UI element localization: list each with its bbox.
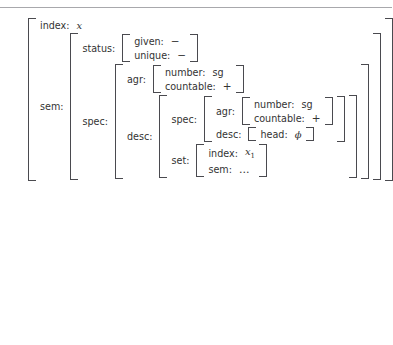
row-index: index: x bbox=[40, 18, 381, 32]
avm-level-4: spec: bbox=[159, 95, 356, 178]
row-sem-set: sem: … bbox=[208, 163, 255, 177]
value-countable-level-4: + bbox=[312, 112, 321, 125]
avm-status: given: − unique: − bbox=[122, 34, 198, 62]
row-unique: unique: − bbox=[134, 48, 186, 62]
avm-body-set: index: x1 sem: bbox=[208, 144, 255, 177]
attr-countable-label-level-4: countable: bbox=[254, 112, 312, 125]
row-head: head: ϕ bbox=[260, 127, 301, 141]
row-number-level-4: number: sg bbox=[254, 97, 321, 111]
avm-agr-level-3: number: sg countable: + bbox=[153, 65, 244, 93]
row-sem: sem: status: bbox=[40, 32, 381, 181]
avm-body-level-2: status: given: − bbox=[82, 33, 368, 180]
row-desc-level-3: desc: bbox=[127, 94, 357, 179]
row-agr-level-4: agr: bbox=[216, 96, 333, 126]
avm-body-level-4: spec: bbox=[171, 95, 344, 178]
value-number-level-4: sg bbox=[301, 98, 312, 111]
avm-set: index: x1 sem: bbox=[196, 144, 267, 177]
value-desc-level-4: head: ϕ bbox=[248, 127, 313, 141]
attr-given-label: given: bbox=[134, 35, 171, 48]
row-set: set: bbox=[171, 143, 344, 178]
attr-agr-label-level-4: agr: bbox=[216, 105, 242, 118]
bracket-left-head bbox=[248, 127, 256, 141]
bracket-right-level-1 bbox=[385, 18, 393, 181]
attr-unique-label: unique: bbox=[134, 49, 177, 62]
value-sem: status: given: − bbox=[70, 33, 380, 180]
avm-body-agr-level-3: number: sg countable: + bbox=[165, 65, 232, 93]
attr-desc-label-level-4: desc: bbox=[216, 128, 249, 141]
value-index-x1: x1 bbox=[245, 145, 255, 163]
attr-countable-label-level-3: countable: bbox=[165, 80, 223, 93]
attr-number-label-level-4: number: bbox=[254, 98, 302, 111]
attr-desc-label-level-3: desc: bbox=[127, 130, 160, 143]
row-desc-level-4: desc: bbox=[216, 126, 333, 142]
bracket-right-agr-level-4 bbox=[325, 97, 333, 125]
avm-body-head: head: ϕ bbox=[260, 127, 301, 141]
bracket-left-status bbox=[122, 34, 130, 62]
bracket-right-level-3 bbox=[361, 64, 369, 179]
value-number-level-3: sg bbox=[212, 66, 223, 79]
bracket-right-spec-level-4 bbox=[337, 96, 345, 142]
top-horizontal-rule bbox=[0, 7, 392, 8]
bracket-right-agr-level-3 bbox=[236, 65, 244, 93]
value-agr-level-4: number: sg bbox=[242, 97, 333, 125]
bracket-left-level-3 bbox=[115, 64, 123, 179]
row-agr-level-3: agr: number: bbox=[127, 64, 357, 94]
value-head-phi: ϕ bbox=[295, 128, 302, 141]
bracket-left-spec-level-4 bbox=[204, 96, 212, 142]
avm-body-spec-level-4: agr: bbox=[216, 96, 333, 142]
value-index: x bbox=[76, 19, 82, 32]
value-agr-level-3: number: sg countable: + bbox=[153, 65, 244, 93]
attr-index-label: index: bbox=[40, 19, 76, 32]
attr-spec-label-level-4: spec: bbox=[171, 113, 204, 126]
value-set: index: x1 sem: bbox=[196, 144, 267, 177]
attr-agr-label-level-3: agr: bbox=[127, 73, 153, 86]
avm-level-3: agr: number: bbox=[115, 64, 369, 179]
value-spec-level-2: agr: number: bbox=[115, 64, 369, 179]
attr-spec-label-level-2: spec: bbox=[82, 115, 115, 128]
row-number-level-3: number: sg bbox=[165, 65, 232, 79]
attr-index-label-set: index: bbox=[208, 147, 244, 160]
value-index-x: x bbox=[76, 19, 82, 32]
avm-figure: index: x sem: bbox=[28, 18, 376, 181]
bracket-left-agr-level-4 bbox=[242, 97, 250, 125]
bracket-right-status bbox=[190, 34, 198, 62]
avm-body-level-3: agr: number: bbox=[127, 64, 357, 179]
value-unique: − bbox=[177, 49, 186, 62]
attr-sem-label-set: sem: bbox=[208, 163, 238, 176]
bracket-right-level-2 bbox=[373, 33, 381, 180]
row-spec-level-4: spec: bbox=[171, 95, 344, 143]
bracket-left-level-1 bbox=[28, 18, 36, 181]
attr-number-label-level-3: number: bbox=[165, 66, 213, 79]
attr-sem-label: sem: bbox=[40, 100, 70, 113]
avm-level-2: status: given: − bbox=[70, 33, 380, 180]
attr-head-label: head: bbox=[260, 128, 294, 141]
value-sem-ellipsis: … bbox=[239, 163, 250, 176]
row-given: given: − bbox=[134, 34, 186, 48]
avm-desc-level-4: head: ϕ bbox=[248, 127, 313, 141]
attr-set-label: set: bbox=[171, 154, 196, 167]
bracket-right-head bbox=[306, 127, 314, 141]
value-index-x1-subscript: 1 bbox=[251, 151, 255, 159]
row-index-set: index: x1 bbox=[208, 144, 255, 163]
avm-body-level-1: index: x sem: bbox=[40, 18, 381, 181]
bracket-left-level-4 bbox=[159, 95, 167, 178]
value-spec-level-4: agr: bbox=[204, 96, 345, 142]
bracket-right-level-4 bbox=[349, 95, 357, 178]
avm-body-status: given: − unique: − bbox=[134, 34, 186, 62]
row-status: status: given: − bbox=[82, 33, 368, 63]
value-status: given: − unique: − bbox=[122, 34, 198, 62]
attr-status-label: status: bbox=[82, 42, 122, 55]
value-desc-level-3: spec: bbox=[159, 95, 356, 178]
value-countable-level-3: + bbox=[223, 80, 232, 93]
bracket-left-set bbox=[196, 144, 204, 177]
value-given: − bbox=[171, 35, 180, 48]
avm-agr-level-4: number: sg bbox=[242, 97, 333, 125]
row-countable-level-3: countable: + bbox=[165, 79, 232, 93]
row-countable-level-4: countable: + bbox=[254, 111, 321, 125]
row-spec-level-2: spec: agr: bbox=[82, 63, 368, 180]
avm-spec-level-4: agr: bbox=[204, 96, 345, 142]
avm-level-1: index: x sem: bbox=[28, 18, 393, 181]
bracket-right-set bbox=[259, 144, 267, 177]
bracket-left-level-2 bbox=[70, 33, 78, 180]
